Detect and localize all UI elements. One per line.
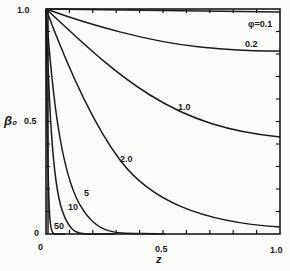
x-axis-label: z xyxy=(155,253,162,265)
y-tick-0.5: 0.5 xyxy=(24,116,37,126)
curve-label-5: 5 xyxy=(84,188,89,198)
curve-label-10: 10 xyxy=(68,202,78,212)
y-ticks xyxy=(46,32,280,212)
curve-phi-1.0 xyxy=(46,9,280,137)
y-tick-1.0: 1.0 xyxy=(17,5,30,15)
y-axis-label: β₀ xyxy=(3,113,17,128)
x-tick-1.0: 1.0 xyxy=(270,245,283,255)
x-ticks xyxy=(69,9,256,234)
y-tick-0: 0 xyxy=(34,228,39,238)
chart: 1.0 0.5 0 β₀ 0 0.5 1.0 z φ=0.1 0.2 1.0 2… xyxy=(0,0,290,271)
curve-phi-10 xyxy=(46,9,115,234)
curve-label-1.0: 1.0 xyxy=(178,102,191,112)
curve-label-2.0: 2.0 xyxy=(120,154,133,164)
curve-label-0.2: 0.2 xyxy=(245,39,258,49)
curve-label-50: 50 xyxy=(54,221,64,231)
x-tick-0: 0 xyxy=(38,242,43,252)
curve-label-phi-0.1: φ=0.1 xyxy=(248,19,272,29)
curve-phi-5 xyxy=(46,9,165,234)
